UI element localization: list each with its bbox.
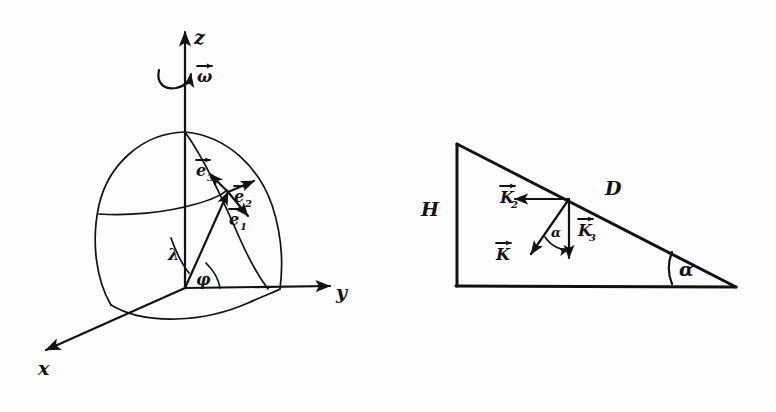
- alpha-vector-angle-label: α: [551, 225, 561, 240]
- K-label: K: [495, 245, 511, 264]
- e3-subscript: 3: [207, 172, 214, 183]
- z-axis-label: z: [193, 26, 206, 48]
- omega-rotation-arrow: [158, 70, 191, 88]
- phi-angle-label: φ: [196, 270, 211, 289]
- omega-label-group: ω: [197, 63, 212, 86]
- lambda-angle-label: λ: [167, 245, 179, 264]
- y-axis-label: y: [335, 281, 349, 303]
- left-panel-group: z y x ω λ φ e 3: [37, 26, 349, 379]
- K2-subscript: 2: [510, 199, 518, 210]
- D-dimension-label: D: [604, 177, 622, 199]
- H-dimension-label: H: [420, 198, 440, 220]
- alpha-base-angle-label: α: [679, 258, 694, 280]
- wedge-hypotenuse-side: [457, 144, 736, 287]
- e3-label: e: [196, 161, 206, 180]
- e1-subscript: 1: [240, 221, 247, 232]
- figure-root: z y x ω λ φ e 3: [0, 0, 776, 412]
- alpha-base-angle-arc: [669, 252, 672, 284]
- omega-label: ω: [197, 67, 212, 86]
- K-label-group: K: [495, 241, 511, 265]
- sphere-meridian-arc: [185, 132, 268, 289]
- right-panel-group: H D α α K 2 K 3: [420, 144, 736, 287]
- sphere-equator-arc: [111, 289, 280, 319]
- K2-label-group: K 2: [499, 184, 518, 211]
- K3-subscript: 3: [589, 232, 596, 243]
- diagram-canvas: z y x ω λ φ e 3: [0, 0, 776, 412]
- K3-label-group: K 3: [577, 217, 596, 244]
- e3-label-group: e 3: [196, 158, 214, 183]
- K-vector-arrow: [531, 199, 569, 254]
- sphere-outline-left-meridian: [95, 132, 185, 305]
- wedge-base-side: [456, 286, 736, 287]
- e2-label: e: [234, 187, 244, 206]
- e2-label-group: e 2: [234, 184, 252, 209]
- e1-label: e: [229, 210, 239, 229]
- x-axis-label: x: [37, 357, 50, 379]
- e2-subscript: 2: [244, 198, 252, 209]
- sphere-parallel-arc: [99, 190, 227, 215]
